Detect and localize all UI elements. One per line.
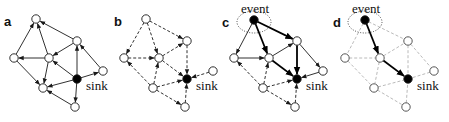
edge-c-BottomCenter-Sink [267, 80, 292, 87]
node-b [181, 103, 189, 111]
edge-a-Sink-Center [53, 61, 74, 77]
edge-a-Left-Top [16, 23, 34, 54]
event-node-c [250, 16, 258, 24]
node-a [73, 37, 81, 45]
edge-c-Event-Center [255, 24, 267, 54]
node-a [71, 103, 79, 111]
edge-c-BottomCenter-Center [264, 63, 268, 84]
edge-d-Center-BottomCenter [375, 62, 379, 83]
edge-a-TopRight-Center [53, 43, 73, 55]
edge-d-Event-Center [366, 24, 378, 54]
node-c [259, 84, 267, 92]
edge-b-Top-Center [147, 23, 157, 53]
edge-a-TopRight-Top [40, 21, 73, 39]
node-c [265, 54, 273, 62]
panel-label-d: d [333, 15, 341, 30]
node-d [404, 37, 412, 45]
sink-label-a: sink [86, 78, 108, 93]
edge-c-BottomCenter-Bottom [267, 90, 291, 104]
node-d [376, 54, 384, 62]
sink-label-b: sink [196, 78, 218, 93]
edge-d-Left-BottomCenter [348, 61, 371, 85]
sink-node-b [183, 75, 191, 83]
node-a [39, 84, 47, 92]
sink-node-d [404, 75, 412, 83]
edges-layer [16, 21, 431, 105]
edge-b-Center-TopRight [163, 43, 183, 55]
edge-b-Center-Sink [162, 61, 183, 77]
edge-c-TopRight-Right [300, 44, 320, 67]
edge-b-BottomCenter-Left [127, 61, 150, 85]
edge-c-Bottom-Sink [295, 84, 296, 103]
node-c [293, 37, 301, 45]
edge-c-Event-TopRight [258, 22, 293, 39]
edge-d-Right-Sink [413, 72, 430, 77]
edge-a-Sink-Right [81, 72, 99, 77]
node-b [120, 54, 128, 62]
diagram-svg: asinkbsinkcsinkeventdsinkevent [0, 0, 449, 122]
node-b [183, 37, 191, 45]
sink-node-c [293, 75, 301, 83]
edge-a-Bottom-BottomCenter [47, 90, 71, 104]
edge-d-BottomCenter-Bottom [378, 90, 402, 104]
node-b [142, 15, 150, 23]
edge-a-Sink-BottomCenter [48, 80, 73, 87]
edge-a-Left-BottomCenter [17, 61, 40, 85]
edge-d-BottomCenter-Sink [378, 80, 403, 87]
edge-b-BottomCenter-Bottom [157, 90, 181, 104]
node-b [149, 84, 157, 92]
panel-label-c: c [222, 15, 229, 30]
node-a [32, 15, 40, 23]
edge-c-Right-Sink [302, 72, 319, 77]
edge-a-Right-TopRight [80, 45, 100, 68]
edge-c-Center-Sink [272, 61, 293, 77]
panel-label-b: b [114, 14, 122, 29]
edge-c-Center-TopRight [273, 43, 293, 55]
edge-d-Event-Left [347, 24, 363, 54]
edge-b-Right-Sink [192, 72, 209, 77]
node-a [45, 54, 53, 62]
node-d [402, 103, 410, 111]
node-a [99, 67, 107, 75]
node-d [370, 84, 378, 92]
edge-d-Event-TopRight [369, 22, 404, 39]
network-figure: asinkbsinkcsinkeventdsinkevent [0, 0, 449, 122]
edge-a-Center-BottomCenter [44, 62, 48, 83]
node-a [10, 54, 18, 62]
sink-node-a [73, 75, 81, 83]
node-d [430, 67, 438, 75]
event-label-c: event [241, 1, 270, 16]
edge-d-Center-Sink [383, 61, 404, 77]
edge-d-Bottom-Sink [406, 84, 407, 103]
node-d [341, 54, 349, 62]
node-c [319, 67, 327, 75]
edge-b-Top-TopRight [150, 21, 183, 39]
sink-label-d: sink [417, 78, 439, 93]
edge-b-BottomCenter-Center [154, 63, 158, 84]
edge-b-Bottom-Sink [185, 84, 186, 103]
labels-layer: asinkbsinkcsinkeventdsinkevent [4, 1, 439, 93]
edge-d-TopRight-Right [411, 44, 431, 67]
event-node-d [361, 16, 369, 24]
node-b [155, 54, 163, 62]
edge-b-Top-Left [126, 23, 144, 54]
edge-c-BottomCenter-Left [237, 61, 260, 85]
node-c [230, 54, 238, 62]
sink-label-c: sink [306, 78, 328, 93]
edge-d-Center-TopRight [384, 43, 404, 55]
edge-b-BottomCenter-Sink [157, 80, 182, 87]
panel-label-a: a [4, 14, 12, 29]
node-b [209, 67, 217, 75]
edge-a-Sink-Bottom [75, 83, 76, 102]
node-c [291, 103, 299, 111]
edge-a-Center-Top [38, 24, 48, 54]
event-label-d: event [352, 1, 381, 16]
edge-c-Event-Left [236, 24, 252, 54]
